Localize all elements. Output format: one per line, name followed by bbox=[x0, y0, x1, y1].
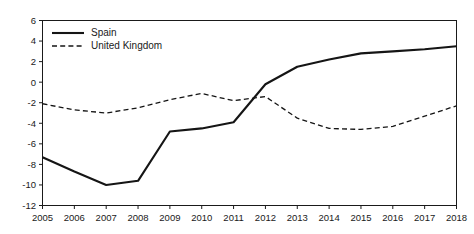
legend-label-united-kingdom: United Kingdom bbox=[91, 40, 162, 51]
x-axis-tick-label: 2017 bbox=[414, 212, 435, 223]
y-axis-tick-label: 4 bbox=[31, 35, 36, 46]
y-axis-tick-label: -6 bbox=[28, 138, 36, 149]
y-axis-tick-label: -8 bbox=[28, 159, 36, 170]
x-axis-tick-label: 2009 bbox=[159, 212, 180, 223]
x-axis-tick-label: 2008 bbox=[127, 212, 148, 223]
x-axis-tick-label: 2006 bbox=[64, 212, 85, 223]
x-axis-tick-label: 2012 bbox=[255, 212, 276, 223]
x-axis-tick-label: 2016 bbox=[382, 212, 403, 223]
y-axis-tick-label: 6 bbox=[31, 15, 36, 26]
chart-plot-area: 6420-2-4-6-8-10-12 200520062007200820092… bbox=[0, 0, 474, 234]
x-axis-tick-label: 2005 bbox=[32, 212, 53, 223]
x-axis-tick-label: 2014 bbox=[319, 212, 340, 223]
y-axis-tick-label: -2 bbox=[28, 97, 36, 108]
x-axis-tick-label: 2010 bbox=[191, 212, 212, 223]
line-chart: 6420-2-4-6-8-10-12 200520062007200820092… bbox=[0, 0, 474, 234]
x-axis-tick-label: 2018 bbox=[446, 212, 467, 223]
y-axis-tick-label: 0 bbox=[31, 77, 36, 88]
x-axis-tick-label: 2015 bbox=[350, 212, 371, 223]
x-axis-tick-label: 2011 bbox=[223, 212, 243, 223]
y-axis-tick-label: -12 bbox=[22, 200, 36, 211]
x-axis-tick-label: 2013 bbox=[287, 212, 308, 223]
legend-label-spain: Spain bbox=[91, 27, 117, 38]
y-axis-tick-label: 2 bbox=[31, 56, 36, 67]
y-axis-tick-label: -10 bbox=[22, 179, 36, 190]
x-axis-tick-label: 2007 bbox=[96, 212, 117, 223]
y-axis-tick-label: -4 bbox=[28, 118, 36, 129]
